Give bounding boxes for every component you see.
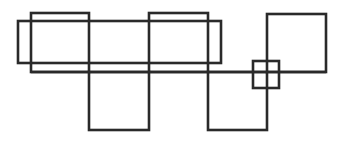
square-bottom-middle [208,72,267,130]
wide-rectangle [18,21,221,63]
square-bottom-left [89,72,149,130]
square-top-right [267,14,326,72]
square-arrangement-diagram [0,0,341,142]
